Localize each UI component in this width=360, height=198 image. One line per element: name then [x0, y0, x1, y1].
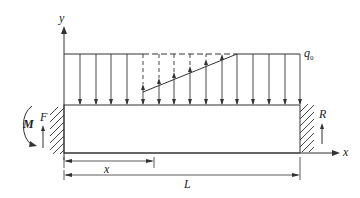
right-support: [300, 104, 314, 152]
dimension-length-label: L: [184, 178, 191, 190]
beam-diagram: y x q0 M F R x L: [0, 0, 360, 198]
reaction-r-label: R: [319, 108, 326, 120]
moment-arrow-icon: [29, 141, 37, 147]
dimension-x-label: x: [104, 163, 109, 175]
force-f-arrow: [41, 125, 45, 148]
dimension-length: [64, 157, 300, 180]
left-fixed-support: [50, 107, 64, 154]
beam: [64, 105, 300, 153]
load-intensity-label: q0: [304, 47, 314, 62]
reaction-r-arrow: [320, 123, 324, 144]
load-intensity-subscript: 0: [310, 54, 314, 62]
x-axis-arrow-icon: [332, 150, 340, 156]
triangular-load-arrows: [141, 54, 224, 105]
beam-diagram-svg: [0, 0, 360, 198]
moment-label: M: [23, 118, 34, 130]
x-axis-label: x: [343, 146, 348, 158]
load-envelope: [64, 54, 300, 92]
force-f-label: F: [40, 111, 47, 123]
y-axis-label: y: [59, 12, 64, 24]
y-axis-arrow-icon: [61, 26, 67, 34]
